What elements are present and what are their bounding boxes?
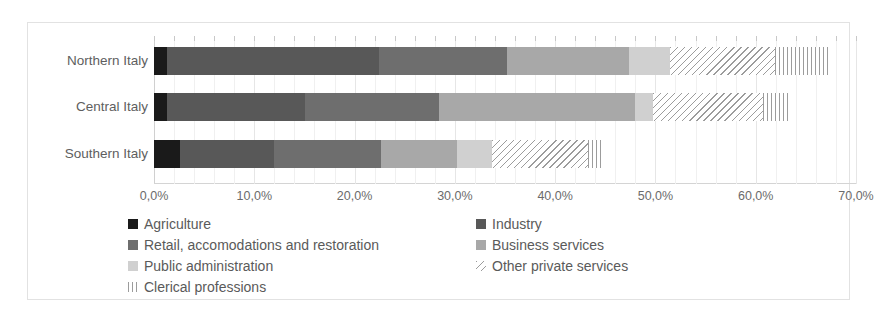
x-tick-label: 70,0% [838, 189, 873, 203]
axis-tick [395, 36, 396, 41]
x-tick-label: 60,0% [738, 189, 773, 203]
legend-swatch-icon [476, 240, 486, 250]
legend-label: Industry [492, 216, 542, 232]
bar-segment[interactable] [274, 140, 380, 168]
x-tick-label: 50,0% [638, 189, 673, 203]
x-tick-label: 30,0% [437, 189, 472, 203]
axis-tick [435, 36, 436, 41]
bar-segment[interactable] [775, 47, 830, 75]
y-axis-label-southern-italy: Southern Italy [65, 146, 148, 161]
axis-tick [655, 36, 656, 41]
axis-tick [495, 36, 496, 41]
legend-label: Retail, accomodations and restoration [144, 237, 379, 253]
axis-tick [675, 36, 676, 41]
chart-frame: Northern ItalyCentral ItalySouthern Ital… [27, 22, 850, 300]
y-axis-label-northern-italy: Northern Italy [67, 53, 148, 68]
bar-segment[interactable] [154, 140, 180, 168]
bar-segment[interactable] [635, 93, 653, 121]
legend-swatch-icon [128, 219, 138, 229]
axis-tick [736, 36, 737, 41]
x-tick-label: 20,0% [337, 189, 372, 203]
bar-segment[interactable] [305, 93, 438, 121]
x-tick-label: 40,0% [537, 189, 572, 203]
legend-column-right: IndustryBusiness servicesOther private s… [476, 213, 806, 276]
axis-tick [274, 36, 275, 41]
axis-tick [716, 36, 717, 41]
axis-tick [314, 36, 315, 41]
gridline-major [856, 36, 857, 184]
bar-segment[interactable] [629, 47, 670, 75]
legend-label: Business services [492, 237, 604, 253]
axis-tick [214, 36, 215, 41]
axis-tick [355, 36, 356, 41]
axis-tick [615, 36, 616, 41]
legend-swatch-icon [476, 219, 486, 229]
axis-tick [696, 36, 697, 41]
axis-tick [595, 36, 596, 41]
bar-segment[interactable] [588, 140, 602, 168]
legend-column-left: AgricultureRetail, accomodations and res… [128, 213, 478, 297]
bar-segment[interactable] [167, 47, 379, 75]
axis-tick [375, 36, 376, 41]
axis-tick [234, 36, 235, 41]
legend-swatch-icon [128, 240, 138, 250]
axis-tick [856, 36, 857, 41]
legend-item[interactable]: Agriculture [128, 213, 478, 234]
bar-segment[interactable] [670, 47, 774, 75]
x-axis-tick-labels: 0,0%10,0%20,0%30,0%40,0%50,0%60,0%70,0% [154, 189, 864, 209]
bar-segment[interactable] [457, 140, 492, 168]
top-edge-artifact [30, 2, 330, 13]
axis-tick [796, 36, 797, 41]
legend-swatch-icon [128, 261, 138, 271]
x-tick-label: 10,0% [237, 189, 272, 203]
legend-swatch-icon [128, 282, 138, 292]
legend-item[interactable]: Other private services [476, 255, 806, 276]
axis-tick [415, 36, 416, 41]
bar-segment[interactable] [763, 93, 791, 121]
bar-segment[interactable] [154, 93, 167, 121]
legend-label: Agriculture [144, 216, 211, 232]
bar-segment[interactable] [154, 47, 167, 75]
legend-item[interactable]: Public administration [128, 255, 478, 276]
axis-tick [535, 36, 536, 41]
bar-segment[interactable] [379, 47, 507, 75]
bar-row [154, 47, 856, 75]
legend-item[interactable]: Clerical professions [128, 276, 478, 297]
axis-tick [294, 36, 295, 41]
bar-segment[interactable] [167, 93, 305, 121]
axis-tick [816, 36, 817, 41]
bar-segment[interactable] [180, 140, 274, 168]
legend-item[interactable]: Business services [476, 234, 806, 255]
axis-tick [154, 36, 155, 41]
legend-label: Other private services [492, 258, 628, 274]
axis-tick [194, 36, 195, 41]
bar-row [154, 140, 856, 168]
bar-row [154, 93, 856, 121]
axis-tick [756, 36, 757, 41]
bar-segment[interactable] [439, 93, 636, 121]
bar-segment[interactable] [492, 140, 588, 168]
axis-tick [776, 36, 777, 41]
axis-tick [515, 36, 516, 41]
bar-segment[interactable] [653, 93, 762, 121]
axis-tick [335, 36, 336, 41]
axis-tick [455, 36, 456, 41]
x-tick-label: 0,0% [140, 189, 169, 203]
axis-tick [475, 36, 476, 41]
legend-swatch-icon [476, 261, 486, 271]
bar-segment[interactable] [507, 47, 629, 75]
y-axis-label-central-italy: Central Italy [76, 99, 148, 114]
y-axis-category-labels: Northern ItalyCentral ItalySouthern Ital… [28, 36, 148, 184]
legend-label: Public administration [144, 258, 273, 274]
legend-item[interactable]: Industry [476, 213, 806, 234]
x-axis-line [154, 183, 856, 184]
legend-item[interactable]: Retail, accomodations and restoration [128, 234, 478, 255]
bar-segment[interactable] [381, 140, 457, 168]
axis-tick [555, 36, 556, 41]
axis-tick [635, 36, 636, 41]
legend-label: Clerical professions [144, 279, 266, 295]
axis-tick [575, 36, 576, 41]
plot-area [154, 36, 856, 184]
axis-tick [174, 36, 175, 41]
axis-tick [254, 36, 255, 41]
